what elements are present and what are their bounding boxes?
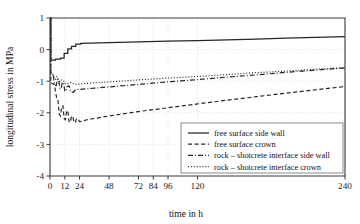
legend-label-0: free surface side wall <box>214 129 285 138</box>
x-tick-label: 0 <box>48 181 53 191</box>
legend-label-3: rock – shotcrete interface crown <box>214 163 322 172</box>
y-tick-label: -3 <box>36 140 44 150</box>
stress-time-line-chart: 012244872849612024010-1-2-3-4 free surfa… <box>0 0 360 224</box>
x-tick-label: 24 <box>75 181 85 191</box>
legend-label-2: rock – shotcrete interface side wall <box>214 151 331 160</box>
legend: free surface side wallfree surface crown… <box>181 123 343 173</box>
x-axis-title: time in h <box>169 208 203 219</box>
y-tick-label: -1 <box>36 77 44 87</box>
y-tick-label: -4 <box>36 171 44 181</box>
x-tick-label: 72 <box>134 181 144 191</box>
x-tick-label: 120 <box>191 181 205 191</box>
y-tick-label: 1 <box>39 13 44 23</box>
y-axis-title: longitudinal stress in MPa <box>4 46 15 147</box>
x-tick-label: 12 <box>60 181 70 191</box>
series-line-1 <box>50 18 345 123</box>
y-tick-label: 0 <box>39 45 44 55</box>
x-tick-label: 240 <box>338 181 352 191</box>
x-tick-label: 48 <box>104 181 114 191</box>
y-tick-label: -2 <box>36 108 44 118</box>
legend-label-1: free surface crown <box>214 140 277 149</box>
x-tick-label: 84 <box>149 181 159 191</box>
series-layer <box>50 18 345 123</box>
chart-figure: 012244872849612024010-1-2-3-4 free surfa… <box>0 0 360 224</box>
x-tick-label: 96 <box>163 181 173 191</box>
